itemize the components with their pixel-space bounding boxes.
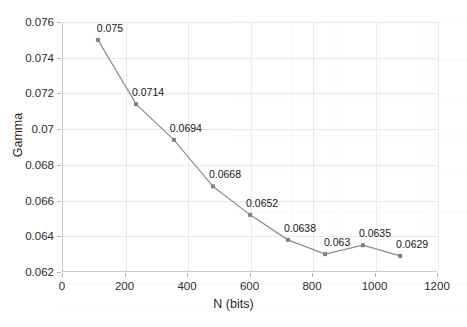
- y-axis-tick-mark: [57, 58, 61, 59]
- y-axis-tick-mark: [57, 129, 61, 130]
- data-point-label: 0.0694: [170, 122, 202, 134]
- data-point-label: 0.063: [324, 236, 350, 248]
- x-axis-tick-mark: [62, 273, 63, 277]
- data-point-label: 0.0668: [209, 168, 241, 180]
- data-point-marker: [134, 102, 138, 106]
- data-point-marker: [248, 213, 252, 217]
- data-point-marker: [286, 238, 290, 242]
- data-point-label: 0.0652: [246, 197, 278, 209]
- x-axis-tick-mark: [125, 273, 126, 277]
- data-point-label: 0.0629: [396, 238, 428, 250]
- data-point-marker: [323, 252, 327, 256]
- x-axis-tick-mark: [250, 273, 251, 277]
- data-point-marker: [172, 138, 176, 142]
- x-axis-tick-label: 800: [302, 280, 321, 292]
- data-series-layer: [0, 0, 467, 327]
- y-axis-tick-mark: [57, 272, 61, 273]
- x-axis-tick-label: 1000: [362, 280, 388, 292]
- y-axis-tick-label: 0.076: [4, 16, 54, 28]
- x-axis-tick-mark: [375, 273, 376, 277]
- y-axis-tick-label: 0.066: [4, 195, 54, 207]
- x-axis-tick-label: 200: [115, 280, 134, 292]
- gamma-vs-n-chart: 0200400600800100012000.0620.0640.0660.06…: [0, 0, 467, 327]
- y-axis-tick-label: 0.062: [4, 266, 54, 278]
- series-line: [98, 40, 400, 256]
- x-axis-tick-label: 600: [240, 280, 259, 292]
- y-axis-label: Gamma: [11, 75, 25, 195]
- y-axis-tick-mark: [57, 93, 61, 94]
- x-axis-tick-mark: [312, 273, 313, 277]
- data-point-label: 0.0638: [284, 222, 316, 234]
- y-axis-tick-label: 0.074: [4, 52, 54, 64]
- x-axis-tick-label: 400: [177, 280, 196, 292]
- data-point-label: 0.0714: [132, 86, 164, 98]
- x-axis-tick-label: 1200: [424, 280, 450, 292]
- y-axis-tick-mark: [57, 201, 61, 202]
- y-axis-tick-mark: [57, 165, 61, 166]
- x-axis-tick-mark: [437, 273, 438, 277]
- data-point-marker: [96, 38, 100, 42]
- x-axis-label: N (bits): [0, 297, 467, 311]
- x-axis-tick-label: 0: [59, 280, 65, 292]
- data-point-marker: [211, 184, 215, 188]
- data-point-marker: [398, 254, 402, 258]
- data-point-label: 0.0635: [359, 227, 391, 239]
- data-point-marker: [361, 243, 365, 247]
- y-axis-tick-mark: [57, 236, 61, 237]
- x-axis-tick-mark: [187, 273, 188, 277]
- series-markers: [96, 38, 402, 258]
- y-axis-tick-label: 0.064: [4, 230, 54, 242]
- y-axis-tick-mark: [57, 22, 61, 23]
- data-point-label: 0.075: [97, 22, 123, 34]
